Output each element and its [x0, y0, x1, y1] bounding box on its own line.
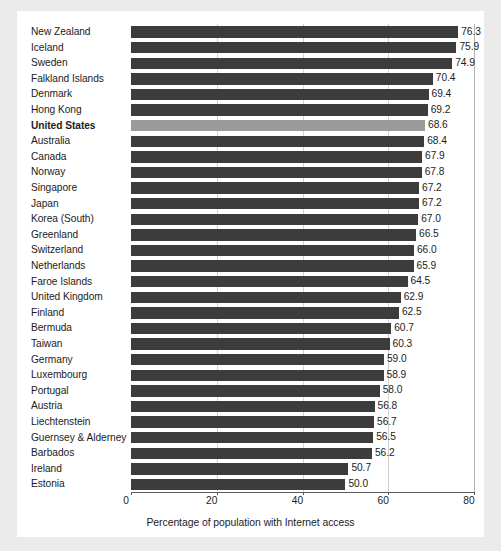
bar [131, 42, 456, 53]
bar-row: Portugal58.0 [17, 383, 484, 400]
bar-value-label: 69.2 [431, 104, 451, 115]
category-label: New Zealand [17, 24, 124, 41]
x-tick-label: 60 [378, 495, 389, 506]
category-label: Falkland Islands [17, 71, 124, 88]
bar-value-label: 66.0 [417, 244, 437, 255]
bar-row: Barbados56.2 [17, 445, 484, 462]
bar [131, 198, 419, 209]
bar-value-label: 64.5 [411, 275, 431, 286]
x-tick-label: 0 [123, 495, 129, 506]
category-label: Portugal [17, 383, 124, 400]
category-label: Taiwan [17, 336, 124, 353]
bar-value-label: 60.7 [394, 322, 414, 333]
bar-row: Estonia50.0 [17, 476, 484, 493]
x-axis-ticks: 020406080 [17, 495, 484, 511]
bar-row: Canada67.9 [17, 149, 484, 166]
x-tick-label: 80 [463, 495, 474, 506]
bar-row: Finland62.5 [17, 305, 484, 322]
bar [131, 354, 384, 365]
bar-row: Austria56.8 [17, 398, 484, 415]
category-label: Singapore [17, 180, 124, 197]
bar-row: Liechtenstein56.7 [17, 414, 484, 431]
bar-value-label: 74.9 [455, 57, 475, 68]
category-label: Guernsey & Alderney [17, 430, 124, 447]
category-label: Greenland [17, 227, 124, 244]
bar-value-label: 56.8 [378, 400, 398, 411]
bar [131, 292, 401, 303]
bar [131, 182, 419, 193]
bar-value-label: 67.8 [425, 166, 445, 177]
bar-row: United States68.6 [17, 118, 484, 135]
category-label: Ireland [17, 461, 124, 478]
category-label: Norway [17, 164, 124, 181]
x-tick-label: 40 [292, 495, 303, 506]
bar-row: Korea (South)67.0 [17, 211, 484, 228]
bar-value-label: 75.9 [459, 41, 479, 52]
bar-row: Hong Kong69.2 [17, 102, 484, 119]
bar-value-label: 50.0 [348, 478, 368, 489]
bar-value-label: 68.6 [428, 119, 448, 130]
bar-value-label: 65.9 [417, 260, 437, 271]
bar [131, 26, 458, 37]
bar [131, 89, 429, 100]
bar [131, 260, 414, 271]
bar-row: Luxembourg58.9 [17, 367, 484, 384]
category-label: Iceland [17, 40, 124, 57]
bar-value-label: 62.5 [402, 306, 422, 317]
bar [131, 136, 424, 147]
bar-row: Greenland66.5 [17, 227, 484, 244]
bar-value-label: 67.0 [421, 213, 441, 224]
bar-value-label: 67.2 [422, 197, 442, 208]
bar-row: Japan67.2 [17, 196, 484, 213]
bar-row: Bermuda60.7 [17, 320, 484, 337]
category-label: Switzerland [17, 242, 124, 259]
bar-value-label: 66.5 [419, 228, 439, 239]
bar [131, 385, 380, 396]
bar-row: Iceland75.9 [17, 40, 484, 57]
bar-value-label: 59.0 [387, 353, 407, 364]
x-tick-label: 20 [206, 495, 217, 506]
bar-row: Singapore67.2 [17, 180, 484, 197]
category-label: United Kingdom [17, 289, 124, 306]
bar-value-label: 67.9 [425, 150, 445, 161]
tick-mark-0 [131, 492, 132, 495]
bar-row: Denmark69.4 [17, 86, 484, 103]
category-label: Austria [17, 398, 124, 415]
bar-row: New Zealand76.3 [17, 24, 484, 41]
bar-value-label: 76.3 [461, 26, 481, 37]
bar [131, 58, 452, 69]
bar [131, 463, 348, 474]
bar [131, 338, 390, 349]
bar-value-label: 56.2 [375, 447, 395, 458]
bar-value-label: 62.9 [404, 291, 424, 302]
bar-value-label: 69.4 [432, 88, 452, 99]
category-label: Germany [17, 352, 124, 369]
bar-row: Sweden74.9 [17, 55, 484, 72]
bar [131, 370, 384, 381]
bar-row: Faroe Islands64.5 [17, 274, 484, 291]
bar [131, 151, 422, 162]
category-label: Netherlands [17, 258, 124, 275]
bar-row: United Kingdom62.9 [17, 289, 484, 306]
category-label: Denmark [17, 86, 124, 103]
bar [131, 167, 422, 178]
bar-value-label: 68.4 [427, 135, 447, 146]
bar-row: Netherlands65.9 [17, 258, 484, 275]
bar-row: Guernsey & Alderney56.5 [17, 430, 484, 447]
bar-rows: New Zealand76.3Iceland75.9Sweden74.9Falk… [17, 24, 484, 492]
bar [131, 214, 418, 225]
chart-card: New Zealand76.3Iceland75.9Sweden74.9Falk… [17, 11, 484, 537]
category-label: Korea (South) [17, 211, 124, 228]
category-label: Sweden [17, 55, 124, 72]
bar [131, 432, 373, 443]
bar [131, 401, 375, 412]
bar-row: Taiwan60.3 [17, 336, 484, 353]
bar-row: Switzerland66.0 [17, 242, 484, 259]
bar-value-label: 56.5 [376, 431, 396, 442]
bar-value-label: 56.7 [377, 416, 397, 427]
bar [131, 448, 372, 459]
category-label: Hong Kong [17, 102, 124, 119]
category-label: Estonia [17, 476, 124, 493]
x-axis-title: Percentage of population with Internet a… [17, 517, 484, 528]
category-label: Faroe Islands [17, 274, 124, 291]
